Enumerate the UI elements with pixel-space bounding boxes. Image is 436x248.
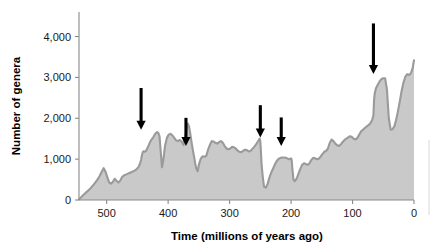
x-tick-marks: [107, 200, 414, 204]
y-tick-labels: 01,0002,0003,0004,000: [43, 31, 71, 206]
y-tick-label-0: 0: [65, 194, 71, 206]
x-tick-label-300: 300: [220, 207, 238, 219]
x-axis-title: Time (millions of years ago): [171, 230, 323, 242]
y-tick-label-3000: 3,000: [43, 71, 71, 83]
biodiversity-figure: 01,0002,0003,0004,000 5004003002001000 N…: [0, 0, 436, 248]
x-tick-label-100: 100: [343, 207, 361, 219]
y-tick-label-4000: 4,000: [43, 31, 71, 43]
x-tick-labels: 5004003002001000: [97, 207, 417, 219]
x-tick-label-400: 400: [159, 207, 177, 219]
y-axis-title: Number of genera: [10, 56, 22, 155]
y-tick-label-2000: 2,000: [43, 112, 71, 124]
y-tick-label-1000: 1,000: [43, 153, 71, 165]
y-tick-marks: [75, 37, 79, 200]
x-tick-label-500: 500: [97, 207, 115, 219]
x-tick-label-0: 0: [411, 207, 417, 219]
chart-canvas: 01,0002,0003,0004,000 5004003002001000 N…: [0, 0, 436, 248]
x-tick-label-200: 200: [282, 207, 300, 219]
